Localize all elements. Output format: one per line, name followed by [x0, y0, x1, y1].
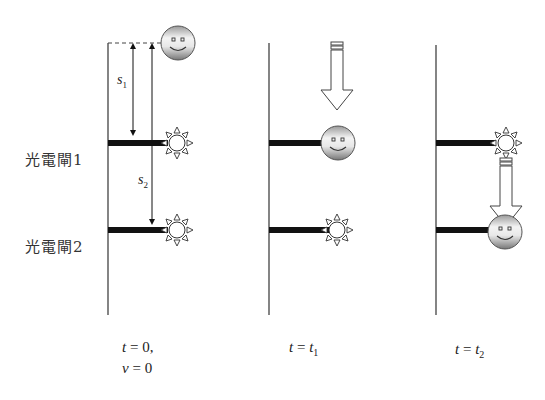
smiley-ball-icon — [161, 26, 195, 60]
falling-arrow-icon — [321, 42, 353, 110]
photogate-2-bar — [108, 227, 168, 233]
time-label-t0: t = 0, — [122, 339, 153, 356]
photogate-2-sensor-icon — [161, 214, 193, 246]
smiley-ball-icon — [488, 215, 522, 249]
time-label-t2: t = t2 — [455, 341, 484, 360]
photogate-1-sensor-icon — [161, 127, 193, 159]
photogate-2-bar — [436, 227, 491, 233]
panel-t0 — [108, 26, 195, 315]
photogate-1-bar — [108, 140, 168, 146]
photogate-1-sensor-icon — [490, 127, 522, 159]
s1-label: s1 — [117, 72, 127, 90]
smiley-ball-icon — [321, 126, 355, 160]
photogate-2-sensor-icon — [321, 214, 353, 246]
photogate-1-label: 光電閘1 — [25, 148, 84, 169]
velocity-label-v0: v = 0 — [122, 360, 152, 377]
photogate-1-bar — [436, 140, 496, 146]
panel-t1 — [269, 42, 355, 315]
panel-t2 — [436, 45, 522, 315]
s2-label: s2 — [138, 172, 148, 190]
photogate-1-bar — [269, 140, 324, 146]
time-label-t1: t = t1 — [289, 339, 318, 358]
diagram-canvas — [0, 0, 545, 400]
photogate-2-label: 光電閘2 — [25, 235, 84, 256]
